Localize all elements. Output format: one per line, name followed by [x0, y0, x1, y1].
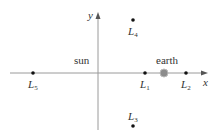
- x-axis-arrow-icon: [201, 71, 208, 76]
- sun-label: sun: [74, 54, 90, 66]
- l3-label: L3: [127, 110, 138, 124]
- l4-point-icon: [131, 18, 135, 22]
- l5-label: L5: [27, 78, 38, 92]
- l2-point-icon: [184, 71, 188, 75]
- l1-label: L1: [139, 78, 150, 92]
- lagrange-diagram: x y sun earth L1 L2 L3 L4 L5: [0, 0, 218, 140]
- x-axis-label: x: [202, 76, 208, 88]
- l1-point-icon: [143, 71, 147, 75]
- earth-icon: [160, 69, 168, 77]
- l4-label: L4: [127, 25, 138, 39]
- l3-point-icon: [131, 124, 135, 128]
- earth-label: earth: [156, 54, 178, 66]
- y-axis-label: y: [87, 9, 93, 21]
- y-axis-arrow-icon: [96, 12, 101, 19]
- l5-point-icon: [31, 71, 35, 75]
- l2-label: L2: [180, 78, 191, 92]
